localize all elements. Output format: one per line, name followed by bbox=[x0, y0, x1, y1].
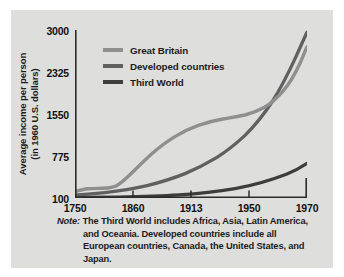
legend-color-swatch bbox=[103, 80, 123, 84]
note-label: Note: bbox=[57, 216, 80, 226]
x-tick-label: 1970 bbox=[287, 202, 327, 214]
legend-color-swatch bbox=[103, 48, 123, 52]
note-text: The Third World includes Africa, Asia, L… bbox=[82, 216, 307, 264]
figure-panel: Average income per person (in 1960 U.S. … bbox=[11, 10, 333, 268]
legend-color-swatch bbox=[103, 64, 123, 68]
legend-item-label: Great Britain bbox=[130, 45, 188, 56]
legend-item-label: Developed countries bbox=[130, 61, 224, 72]
x-tick-label: 1913 bbox=[171, 202, 211, 214]
legend-item-developed-countries: Developed countries bbox=[103, 58, 253, 74]
figure-note: Note: The Third World includes Africa, A… bbox=[57, 215, 319, 265]
legend-item-label: Third World bbox=[130, 77, 184, 88]
x-tick-label: 1860 bbox=[113, 202, 153, 214]
legend-item-great-britain: Great Britain bbox=[103, 42, 253, 58]
legend-item-third-world: Third World bbox=[103, 74, 253, 90]
chart-legend: Great Britain Developed countries Third … bbox=[103, 42, 253, 90]
x-tick-label: 1950 bbox=[229, 202, 269, 214]
x-tick-label: 1750 bbox=[55, 202, 95, 214]
